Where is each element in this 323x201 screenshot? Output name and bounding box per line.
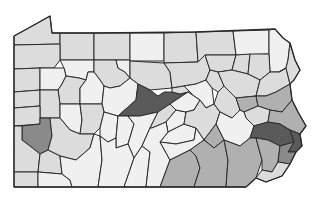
county-crawford[interactable]: Crawford — [14, 44, 60, 69]
county-beaver[interactable]: Beaver — [14, 106, 40, 126]
county-lawrence[interactable]: Lawrence — [14, 90, 40, 108]
county-butler[interactable]: Butler — [40, 90, 60, 118]
county-layer: ErieWarrenMcKeanPotterTiogaBradfordSusqu… — [14, 16, 306, 187]
county-potter[interactable]: Potter — [130, 33, 164, 61]
county-warren[interactable]: Warren — [60, 33, 94, 60]
county-erie[interactable]: Erie — [14, 16, 60, 45]
pennsylvania-county-map: ErieWarrenMcKeanPotterTiogaBradfordSusqu… — [0, 0, 323, 201]
county-tioga[interactable]: Tioga — [164, 32, 198, 63]
county-greene[interactable]: Greene — [14, 172, 38, 187]
county-susquehanna[interactable]: Susquehanna — [233, 30, 269, 55]
county-mercer[interactable]: Mercer — [14, 68, 40, 92]
county-mckean[interactable]: McKean — [94, 33, 130, 60]
county-sullivan[interactable]: Sullivan — [205, 55, 236, 72]
county-lancaster[interactable]: Lancaster — [224, 138, 262, 187]
